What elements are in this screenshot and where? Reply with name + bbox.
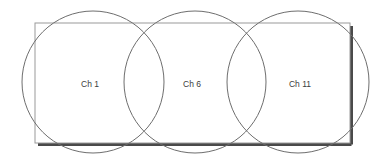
channel-label-ch-1: Ch 1: [81, 79, 99, 89]
diagram-canvas: Ch 1 Ch 6 Ch 11: [0, 0, 381, 165]
channel-label-ch-11: Ch 11: [289, 79, 311, 89]
channel-label-ch-6: Ch 6: [183, 79, 201, 89]
channel-coverage-diagram: Ch 1 Ch 6 Ch 11: [0, 0, 381, 165]
